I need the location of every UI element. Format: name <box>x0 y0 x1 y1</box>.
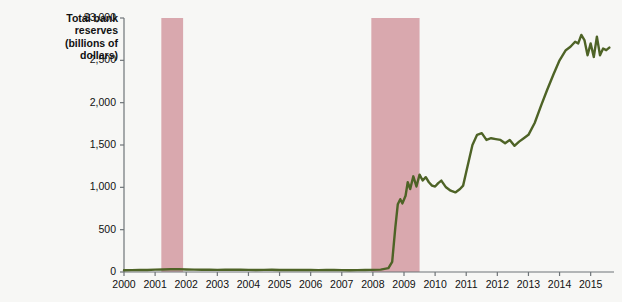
y-tick-label: 0 <box>62 265 116 277</box>
data-series <box>124 35 609 270</box>
recession-bands <box>161 18 419 272</box>
y-tick-label: 500 <box>62 223 116 235</box>
y-tick-label: $3,000 <box>62 11 116 23</box>
y-tick-label: 2,000 <box>62 96 116 108</box>
chart-figure: Total bank reserves (billions of dollars… <box>0 0 622 302</box>
chart-axes <box>120 18 614 276</box>
y-tick-label: 1,000 <box>62 180 116 192</box>
x-tick-label: 2015 <box>571 278 611 290</box>
y-tick-label: 1,500 <box>62 138 116 150</box>
chart-canvas <box>0 0 622 302</box>
y-tick-label: 2,500 <box>62 53 116 65</box>
